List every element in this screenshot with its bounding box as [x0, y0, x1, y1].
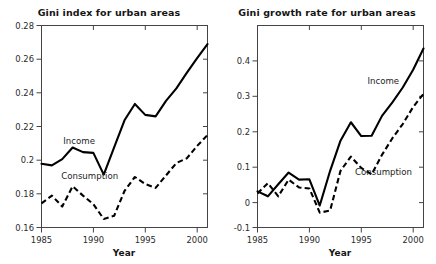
y-tick-label: 0	[245, 198, 250, 208]
y-tick-label: 0.2	[237, 127, 250, 137]
figure-container: Gini index for urban areas	[0, 0, 436, 264]
y-tick-label: 0.1	[237, 162, 250, 172]
y-tick-labels-right: 0.4 0.3 0.2 0.1 0 -0.1	[234, 56, 250, 233]
x-ticks-right	[258, 26, 414, 233]
x-tick-label: 1995	[351, 235, 372, 245]
y-tick-labels-left: 0.28 0.26 0.24 0.22 0.2 0.18 0.16	[15, 21, 34, 233]
y-tick-label: 0.3	[237, 91, 250, 101]
y-tick-label: 0.16	[15, 223, 34, 233]
series-line-income-left	[42, 44, 208, 175]
plot-right: 0.4 0.3 0.2 0.1 0 -0.1 1985 1990 1995	[218, 0, 436, 264]
x-tick-label: 1995	[135, 235, 156, 245]
y-tick-label: 0.28	[15, 21, 34, 31]
x-tick-label: 1990	[299, 235, 320, 245]
x-axis-label-left: Year	[112, 248, 136, 258]
series-annotation-income-right: Income	[368, 76, 400, 86]
series-annotation-income-left: Income	[63, 136, 95, 146]
y-tick-label: 0.4	[237, 56, 250, 66]
y-tick-label: 0.2	[21, 155, 34, 165]
plot-left: 0.28 0.26 0.24 0.22 0.2 0.18 0.16 1985 1…	[0, 0, 218, 264]
chart-panel-gini-index: Gini index for urban areas	[0, 0, 218, 264]
series-annotation-consumption-left: Consumption	[61, 171, 118, 181]
x-tick-label: 2000	[403, 235, 424, 245]
y-tick-label: 0.18	[15, 189, 34, 199]
chart-panel-gini-growth-rate: Gini growth rate for urban areas 0.4	[218, 0, 436, 264]
x-tick-labels-right: 1985 1990 1995 2000	[247, 235, 424, 245]
x-tick-label: 2000	[187, 235, 208, 245]
x-tick-label: 1985	[247, 235, 268, 245]
y-tick-label: 0.24	[15, 88, 34, 98]
y-tick-label: 0.26	[15, 54, 34, 64]
x-tick-label: 1990	[83, 235, 104, 245]
y-tick-label: 0.22	[15, 122, 34, 132]
x-tick-labels-left: 1985 1990 1995 2000	[31, 235, 208, 245]
x-axis-label-right: Year	[328, 248, 352, 258]
series-annotation-consumption-right: Consumption	[355, 167, 412, 177]
y-tick-label: -0.1	[234, 223, 250, 233]
plot-frame-right	[258, 26, 424, 228]
series-line-income-right	[258, 49, 424, 206]
x-tick-label: 1985	[31, 235, 52, 245]
series-line-consumption-right	[258, 94, 424, 213]
